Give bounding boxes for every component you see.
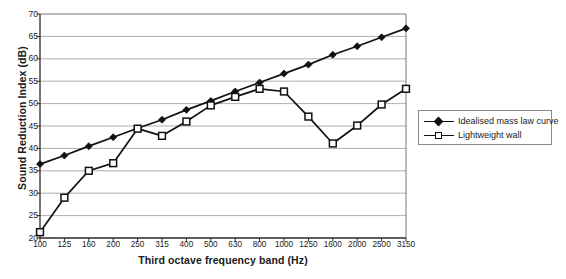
legend-item-lightweight-wall: Lightweight wall	[424, 128, 522, 142]
legend-label: Idealised mass law curve	[458, 116, 559, 126]
legend-marker-filled-diamond-icon	[424, 115, 454, 127]
x-axis-title: Third octave frequency band (Hz)	[40, 254, 406, 266]
sound-reduction-index-chart: Sound Reduction Index (dB) 2025303540455…	[0, 0, 566, 279]
legend-item-idealised-mass-law-curve: Idealised mass law curve	[424, 114, 559, 128]
x-tick-label: 3150	[386, 240, 426, 249]
legend-label: Lightweight wall	[458, 130, 522, 140]
legend-marker-open-square-icon	[424, 129, 454, 141]
chart-legend: Idealised mass law curve Lightweight wal…	[418, 110, 552, 145]
